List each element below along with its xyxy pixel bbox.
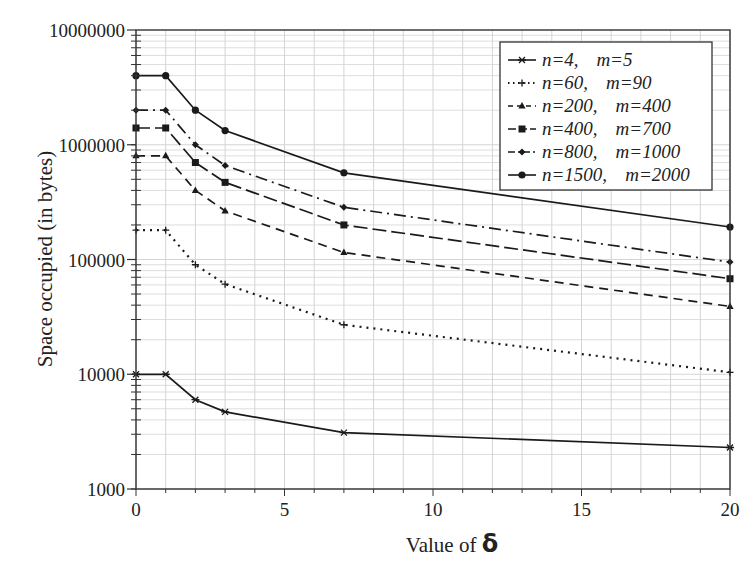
triangle-marker-icon xyxy=(340,249,347,256)
legend-label-m: m=90 xyxy=(606,72,652,93)
circle-marker-icon xyxy=(340,169,347,176)
triangle-marker-icon xyxy=(162,152,169,159)
y-tick-label: 10000000 xyxy=(49,20,125,41)
legend-label-n: n=800, xyxy=(542,141,598,162)
legend-label-n: n=60, xyxy=(542,72,588,93)
y-tick-label: 10000 xyxy=(78,364,126,385)
legend-label-n: n=4, xyxy=(542,49,579,70)
square-marker-icon xyxy=(222,179,229,186)
x-tick-label: 0 xyxy=(131,499,141,520)
legend: n=4,m=5n=60,m=90n=200,m=400n=400,m=700n=… xyxy=(500,42,712,190)
triangle-marker-icon xyxy=(192,186,199,193)
plus-marker-icon xyxy=(222,281,229,288)
y-tick-label: 100000 xyxy=(68,250,125,271)
legend-label-m: m=700 xyxy=(616,118,672,139)
plus-marker-icon xyxy=(340,321,347,328)
circle-marker-icon xyxy=(222,127,229,134)
square-marker-icon xyxy=(162,124,169,131)
y-tick-label: 1000 xyxy=(87,479,125,500)
legend-label-m: m=400 xyxy=(616,95,672,116)
delta-symbol: δ xyxy=(482,530,499,558)
x-tick-label: 5 xyxy=(280,499,290,520)
circle-marker-icon xyxy=(162,72,169,79)
square-marker-icon xyxy=(340,221,347,228)
y-tick-label: 1000000 xyxy=(59,135,126,156)
x-tick-label: 20 xyxy=(721,499,740,520)
line-chart: 05101520100010000100000100000010000000 S… xyxy=(0,0,753,579)
x-axis-title: Value of δ xyxy=(406,530,498,558)
y-axis-title: Space occupied (in bytes) xyxy=(33,151,57,367)
x-axis-title-text: Value of xyxy=(406,533,482,557)
diamond-marker-icon xyxy=(222,162,229,169)
legend-label-n: n=1500, xyxy=(542,164,607,185)
plus-marker-icon xyxy=(162,227,169,234)
circle-marker-icon xyxy=(192,107,199,114)
x-tick-label: 15 xyxy=(572,499,591,520)
circle-marker-icon xyxy=(518,171,525,178)
legend-label-m: m=1000 xyxy=(616,141,681,162)
x-tick-label: 10 xyxy=(424,499,443,520)
square-marker-icon xyxy=(192,159,199,166)
legend-label-n: n=200, xyxy=(542,95,598,116)
legend-label-n: n=400, xyxy=(542,118,598,139)
legend-label-m: m=5 xyxy=(596,49,632,70)
square-marker-icon xyxy=(519,126,526,133)
legend-label-m: m=2000 xyxy=(625,164,690,185)
